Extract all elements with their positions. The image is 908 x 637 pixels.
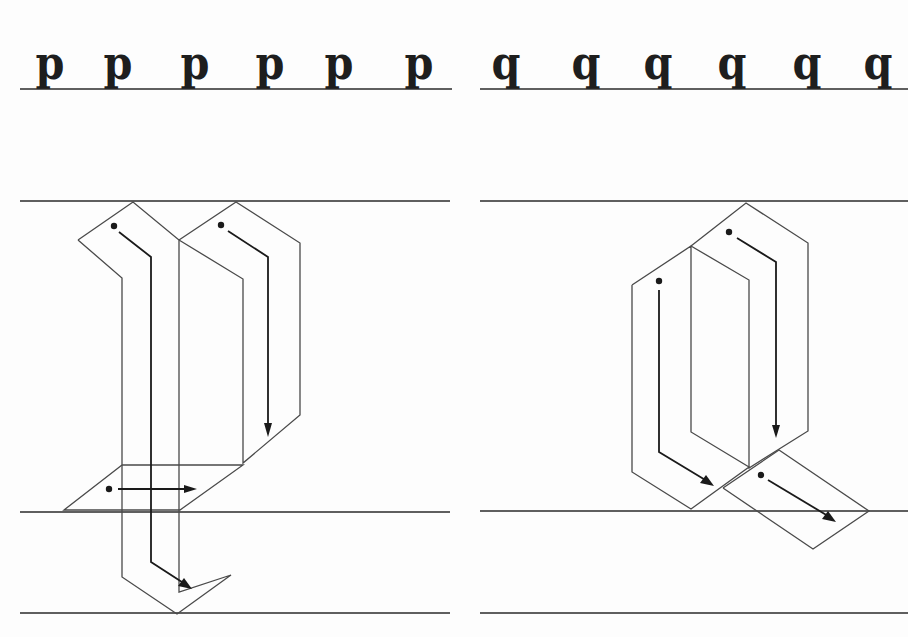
q-stroke2-arrow-path (737, 238, 776, 426)
q-bowl-outline (632, 246, 749, 509)
q-stroke1-arrowhead-icon (700, 475, 714, 486)
letter-q-construction (632, 203, 869, 549)
q-stem-outline (691, 203, 808, 468)
p-stroke1-arrowhead-icon (178, 578, 192, 589)
guidelines (20, 89, 908, 613)
p-stem-outline (78, 202, 231, 614)
p-stroke1-start-dot (111, 223, 117, 229)
stroke-diagram (0, 0, 908, 637)
q-stroke1-start-dot (656, 278, 662, 284)
p-stroke2-start-dot (218, 222, 224, 228)
p-stroke3-arrowhead-icon (184, 485, 197, 493)
letter-p-construction (64, 202, 300, 614)
p-stroke3-start-dot (106, 486, 112, 492)
construction-sheet: p p p p p p q q q q q q (0, 0, 908, 637)
q-stroke2-start-dot (726, 229, 732, 235)
q-stroke2-arrowhead-icon (772, 425, 780, 438)
q-stroke1-arrow-path (659, 290, 707, 481)
p-stroke2-arrowhead-icon (264, 423, 272, 437)
p-stroke2-arrow-path (228, 231, 268, 424)
p-stroke1-arrow-path (119, 232, 185, 584)
p-bowl-outline (179, 202, 300, 463)
q-stroke3-start-dot (758, 472, 764, 478)
p-foot-outline (64, 465, 243, 510)
